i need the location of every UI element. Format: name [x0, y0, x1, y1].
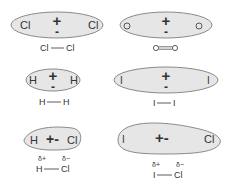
right-atom: H	[70, 74, 78, 86]
negative-center: -	[51, 80, 55, 94]
formula-left: I	[153, 170, 156, 180]
formula-right: Cl	[174, 170, 183, 180]
left-atom: I	[122, 134, 125, 145]
negative-center: -	[55, 25, 59, 39]
formula-right: Cl	[61, 164, 70, 174]
formula-left: I	[153, 98, 156, 108]
right-atom: Cl	[88, 19, 98, 31]
delta-positive: δ+	[152, 161, 160, 168]
negative-center: -	[164, 80, 168, 94]
delta-negative: δ−	[176, 161, 184, 168]
right-atom: Cl	[204, 133, 214, 145]
formula-right-o	[172, 45, 177, 50]
left-atom: H	[29, 74, 37, 86]
left-atom: I	[120, 75, 123, 86]
right-atom: Cl	[67, 134, 77, 146]
molecule-hcl: H Cl +- δ+ δ− H Cl	[24, 127, 81, 174]
formula-left: H	[36, 164, 43, 174]
right-atom: I	[207, 75, 210, 86]
molecule-icl: I Cl +- δ+ δ− I Cl	[118, 123, 220, 180]
formula-right: H	[63, 97, 70, 107]
left-atom: H	[30, 134, 38, 146]
molecule-i2: I I + - I I	[114, 67, 218, 108]
formula-right: Cl	[66, 43, 75, 53]
delta-negative: δ−	[62, 155, 70, 162]
bond-polarity-diagram: Cl Cl + - Cl Cl + - H H + - H H I I + - …	[0, 0, 235, 186]
dipole-center: +-	[155, 129, 169, 146]
formula-left-o	[153, 45, 158, 50]
dipole-center: +-	[46, 131, 59, 147]
formula-left: H	[39, 97, 46, 107]
molecule-h2: H H + - H H	[26, 67, 80, 107]
molecule-cl2: Cl Cl + - Cl Cl	[11, 12, 103, 53]
molecule-o2: + -	[120, 12, 212, 51]
left-atom: Cl	[20, 19, 30, 31]
formula-left: Cl	[40, 43, 49, 53]
formula-right: I	[173, 98, 176, 108]
delta-positive: δ+	[38, 155, 46, 162]
negative-center: -	[164, 25, 168, 39]
